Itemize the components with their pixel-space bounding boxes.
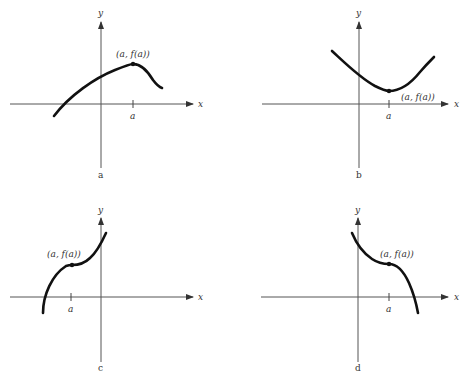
panel-d: x y a (a, f(a)) d bbox=[261, 205, 459, 373]
tick-label: a bbox=[68, 304, 73, 314]
y-axis-label: y bbox=[355, 8, 362, 18]
curve bbox=[332, 51, 434, 91]
panel-caption: c bbox=[98, 363, 103, 373]
point-marker bbox=[70, 263, 74, 267]
curve bbox=[352, 233, 418, 313]
point-label: (a, f(a)) bbox=[401, 92, 435, 102]
x-axis-label: x bbox=[198, 99, 203, 109]
point-marker bbox=[387, 262, 391, 266]
tick-label: a bbox=[130, 111, 135, 121]
tick-label: a bbox=[386, 304, 391, 314]
point-label: (a, f(a)) bbox=[47, 249, 81, 259]
x-axis-label: x bbox=[198, 292, 203, 302]
panel-a: x y a (a, f(a)) a bbox=[10, 8, 203, 180]
figure: x y a (a, f(a)) a x y a (a, f(a)) b x y … bbox=[0, 0, 470, 382]
tick-label: a bbox=[386, 111, 391, 121]
y-axis-label: y bbox=[97, 8, 104, 18]
y-axis-label: y bbox=[354, 205, 361, 215]
x-axis-label: x bbox=[454, 99, 459, 109]
panel-c: x y a (a, f(a)) c bbox=[10, 205, 203, 373]
curve bbox=[43, 233, 106, 313]
point-marker bbox=[387, 89, 391, 93]
panel-caption: a bbox=[98, 170, 104, 180]
panel-caption: b bbox=[356, 170, 362, 180]
point-marker bbox=[131, 62, 135, 66]
curve bbox=[54, 64, 162, 116]
point-label: (a, f(a)) bbox=[116, 49, 150, 59]
y-axis-label: y bbox=[97, 205, 104, 215]
x-axis-label: x bbox=[454, 292, 459, 302]
panel-caption: d bbox=[355, 363, 361, 373]
panel-b: x y a (a, f(a)) b bbox=[262, 8, 459, 180]
point-label: (a, f(a)) bbox=[380, 249, 414, 259]
